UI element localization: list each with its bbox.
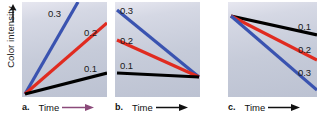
panel-b-lines bbox=[115, 2, 200, 97]
right-arrow-icon bbox=[156, 103, 188, 112]
panel-c-x-label: Time bbox=[245, 102, 266, 113]
panel-b-x-label: Time bbox=[132, 102, 153, 113]
right-arrow-icon bbox=[268, 103, 300, 112]
series-label-0.2: 0.2 bbox=[298, 44, 311, 55]
series-label-0.1: 0.1 bbox=[298, 21, 311, 32]
panel-a-x-axis: a. Time bbox=[22, 99, 107, 115]
series-label-0.1: 0.1 bbox=[120, 60, 133, 71]
y-axis: Color intensity bbox=[0, 0, 22, 105]
panel-c-x-axis: c. Time bbox=[228, 99, 317, 115]
right-arrow-icon bbox=[62, 103, 94, 112]
line-series-0.1 bbox=[117, 73, 199, 77]
series-label-0.2: 0.2 bbox=[120, 35, 133, 46]
figure-container: Color intensity 0.3 0.2 0.1 a. Time 0.3 … bbox=[0, 0, 317, 118]
panel-b-letter: b. bbox=[115, 102, 123, 112]
series-label-0.1: 0.1 bbox=[84, 63, 97, 74]
y-axis-label: Color intensity bbox=[0, 0, 22, 80]
panel-a-letter: a. bbox=[22, 102, 30, 112]
panel-a-x-label: Time bbox=[39, 102, 60, 113]
panel-b-plot: 0.3 0.2 0.1 bbox=[115, 2, 200, 97]
series-label-0.3: 0.3 bbox=[120, 5, 133, 16]
panel-c-plot: 0.1 0.2 0.3 bbox=[228, 2, 317, 97]
series-label-0.3: 0.3 bbox=[48, 8, 61, 19]
panel-b-x-axis: b. Time bbox=[115, 99, 200, 115]
panel-a-lines bbox=[22, 2, 107, 97]
series-label-0.2: 0.2 bbox=[84, 27, 97, 38]
series-label-0.3: 0.3 bbox=[298, 67, 311, 78]
panel-a-plot: 0.3 0.2 0.1 bbox=[22, 2, 107, 97]
panel-c-letter: c. bbox=[228, 102, 236, 112]
